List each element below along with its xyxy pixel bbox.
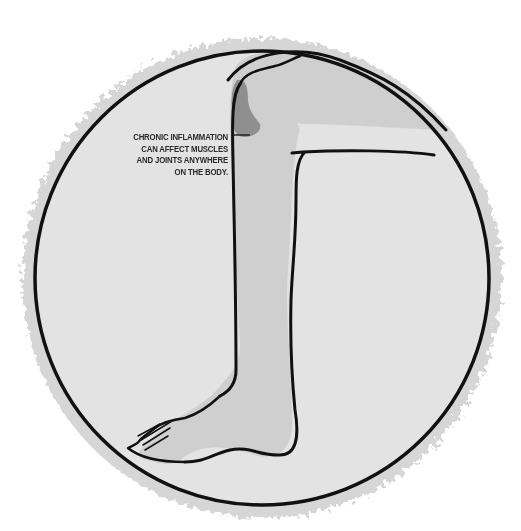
caption-line: AND JOINTS ANYWHERE	[120, 154, 228, 166]
caption-line: CHRONIC INFLAMMATION	[120, 131, 228, 143]
illustration	[0, 0, 521, 531]
caption-line: ON THE BODY.	[120, 166, 228, 178]
caption-line: CAN AFFECT MUSCLES	[120, 143, 228, 155]
inflammation-caption: CHRONIC INFLAMMATION CAN AFFECT MUSCLES …	[120, 131, 228, 177]
